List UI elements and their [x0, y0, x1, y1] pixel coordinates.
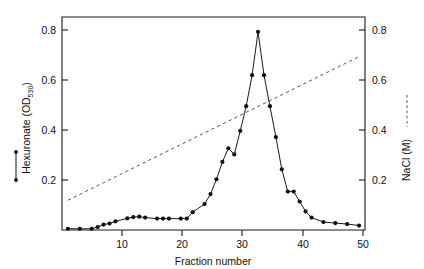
data-point-marker	[78, 227, 82, 231]
x-tick-label-40: 40	[297, 238, 309, 250]
data-point-marker	[321, 220, 325, 224]
legend-marker-bottom	[14, 178, 18, 182]
data-point-marker	[155, 217, 159, 221]
data-point-marker	[244, 104, 248, 108]
data-point-marker	[131, 215, 135, 219]
left-y-axis-title-subscript: 530	[27, 86, 34, 98]
x-tick-label-20: 20	[176, 238, 188, 250]
data-point-marker	[238, 129, 242, 133]
data-point-marker	[286, 190, 290, 194]
data-point-marker	[232, 152, 236, 156]
x-axis-title: Fraction number	[175, 255, 252, 267]
data-point-marker	[90, 227, 94, 231]
data-point-marker	[143, 216, 147, 220]
right-tick-label-0.6: 0.6	[372, 74, 387, 86]
data-point-marker	[202, 202, 206, 206]
data-point-marker	[96, 225, 100, 229]
data-point-marker	[262, 73, 266, 77]
data-point-marker	[113, 219, 117, 223]
data-point-marker	[250, 73, 254, 77]
chart-figure: 0.8 0.6 0.4 0.2 0.8 0.6 0.4 0.2 10 20 30	[0, 0, 424, 269]
hexuronate-nacl-elution-chart: 0.8 0.6 0.4 0.2 0.8 0.6 0.4 0.2 10 20 30	[0, 0, 424, 269]
right-y-axis-title-text: NaCl (M)	[400, 139, 412, 181]
legend-marker-top	[14, 150, 18, 154]
data-point-marker	[268, 104, 272, 108]
data-point-marker	[303, 209, 307, 213]
data-point-marker	[66, 227, 70, 231]
left-tick-label-0.8: 0.8	[41, 24, 56, 36]
data-point-marker	[191, 210, 195, 214]
data-point-marker	[357, 223, 361, 227]
data-point-marker	[309, 216, 313, 220]
data-point-marker	[101, 222, 105, 226]
data-point-marker	[137, 215, 141, 219]
data-point-marker	[214, 177, 218, 181]
data-point-marker	[298, 199, 302, 203]
left-tick-label-0.6: 0.6	[41, 74, 56, 86]
data-point-marker	[292, 190, 296, 194]
right-tick-label-0.8: 0.8	[372, 24, 387, 36]
right-y-axis-title: NaCl (M)	[400, 139, 412, 181]
data-point-marker	[256, 30, 260, 34]
left-y-axis-title-main: Hexuronate (OD	[20, 97, 32, 174]
right-tick-label-0.2: 0.2	[372, 174, 387, 186]
left-tick-label-0.2: 0.2	[41, 174, 56, 186]
data-point-marker	[208, 192, 212, 196]
x-tick-label-30: 30	[236, 238, 248, 250]
data-point-marker	[333, 221, 337, 225]
data-point-marker	[345, 222, 349, 226]
data-point-marker	[107, 221, 111, 225]
right-tick-label-0.4: 0.4	[372, 124, 387, 136]
data-point-marker	[125, 216, 129, 220]
left-y-axis-title-tail: )	[20, 82, 32, 86]
data-point-marker	[226, 146, 230, 150]
chart-background	[0, 0, 424, 269]
data-point-marker	[274, 135, 278, 139]
data-point-marker	[185, 217, 189, 221]
left-tick-label-0.4: 0.4	[41, 124, 56, 136]
data-point-marker	[220, 160, 224, 164]
x-tick-label-50: 50	[357, 238, 369, 250]
data-point-marker	[179, 217, 183, 221]
data-point-marker	[161, 217, 165, 221]
x-tick-label-10: 10	[116, 238, 128, 250]
data-point-marker	[167, 217, 171, 221]
data-point-marker	[280, 167, 284, 171]
